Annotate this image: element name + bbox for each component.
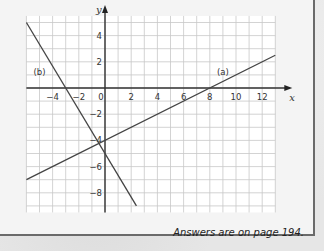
y-axis-label: y [95, 4, 102, 15]
x-tick-label: −2 [73, 92, 86, 102]
x-tick-label: 8 [207, 92, 212, 102]
x-tick-label: −4 [46, 92, 59, 102]
x-tick-label: 2 [128, 92, 133, 102]
x-axis-label: x [289, 92, 295, 103]
y-tick-label: −2 [89, 109, 102, 119]
line-graph: xy−4−202468101242−2−4−6−8(a)(b) [0, 0, 313, 234]
x-tick-label: 10 [231, 92, 242, 102]
x-tick-label: 0 [98, 92, 103, 102]
x-axis-arrow-icon [284, 85, 292, 91]
figure-panel: xy−4−202468101242−2−4−6−8(a)(b) [0, 0, 315, 236]
y-tick-label: −6 [89, 162, 102, 172]
x-tick-label: 12 [257, 92, 268, 102]
line-label: (a) [217, 67, 229, 77]
y-axis-arrow-icon [102, 5, 108, 13]
y-tick-label: 2 [97, 57, 102, 67]
answers-note: Answers are on page 194. [173, 227, 304, 238]
line-label: (b) [33, 67, 45, 77]
y-tick-label: 4 [97, 31, 102, 41]
x-tick-label: 4 [155, 92, 160, 102]
y-tick-label: −8 [89, 188, 102, 198]
